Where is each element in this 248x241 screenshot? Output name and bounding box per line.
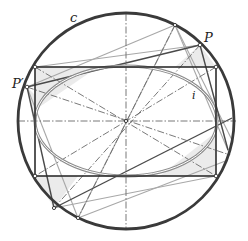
point-p [198,43,202,47]
ellipse-circle-construction-diagram: c i P P′ [0,0,248,241]
center-point [124,119,127,122]
label-circle-c: c [70,10,78,25]
label-point-p: P [203,30,213,45]
label-ellipse-i: i [192,89,196,102]
shaded-regions [27,45,216,208]
point-p-prime [25,85,29,89]
label-point-p-prime: P′ [11,76,24,91]
